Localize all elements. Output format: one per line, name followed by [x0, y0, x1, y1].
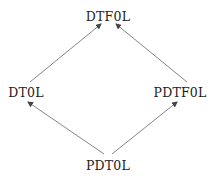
node-dtf0l: DTF0L — [86, 9, 130, 24]
node-pdt0l: PDT0L — [86, 158, 130, 173]
lattice-diagram: DTF0L DT0L PDTF0L PDT0L — [0, 0, 216, 182]
node-dt0l: DT0L — [8, 85, 43, 100]
node-pdtf0l: PDTF0L — [154, 85, 207, 100]
edge-pdtf0l-to-dtf0l — [116, 24, 187, 82]
edge-pdt0l-to-dt0l — [28, 102, 104, 154]
edge-pdt0l-to-pdtf0l — [112, 102, 177, 154]
edge-dt0l-to-dtf0l — [30, 24, 101, 82]
